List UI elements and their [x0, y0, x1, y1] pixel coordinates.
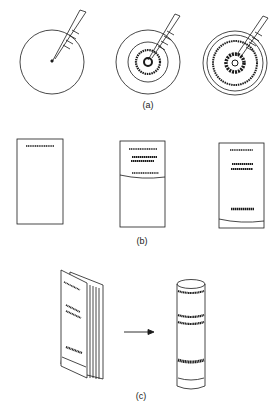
pipette-icon — [52, 10, 86, 62]
panel-a-label: (a) — [128, 100, 168, 110]
panel-b-strip-3 — [219, 143, 264, 228]
panel-a-figure-2 — [116, 14, 180, 94]
panel-a-figure-1 — [20, 10, 86, 94]
panel-b-strip-1 — [17, 139, 63, 224]
panel-b-strip-2 — [120, 141, 165, 227]
panel-c-paper-stack — [61, 270, 103, 379]
panel-b-label: (b) — [122, 236, 162, 246]
pipette-icon — [148, 14, 180, 60]
panel-c-cylinder — [177, 280, 205, 390]
chromatography-diagram — [0, 0, 280, 417]
panel-a-figure-3 — [203, 16, 268, 95]
arrow-icon — [124, 330, 154, 335]
panel-c-label: (c) — [121, 391, 161, 401]
pipette-icon — [236, 16, 268, 58]
